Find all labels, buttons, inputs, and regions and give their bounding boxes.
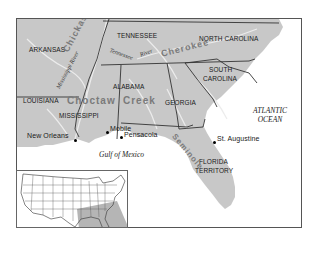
city-dot-st-augustine [213,141,216,144]
state-label-mississippi: MISSISSIPPI [59,112,99,119]
nation-label-choctaw: Choctaw [67,95,116,106]
state-label-tennessee: TENNESSEE [117,32,157,39]
city-label-new-orleans: New Orleans [27,132,69,139]
state-label-louisiana: LOUISIANA [23,97,59,104]
state-label-arkansas: ARKANSAS [29,46,65,53]
state-label-alabama: ALABAMA [113,83,144,90]
water-label-atlantic: ATLANTIC OCEAN [245,106,295,124]
city-dot-new-orleans [74,139,77,142]
water-label-atlantic-line1: ATLANTIC [245,106,295,115]
water-label-gulf-of-mexico: Gulf of Mexico [99,150,144,159]
nation-label-creek: Creek [123,95,156,106]
city-dot-pensacola [120,136,123,139]
water-label-atlantic-line2: OCEAN [245,115,295,124]
city-label-st-augustine: St. Augustine [217,135,260,142]
state-label-south-carolina-line2: CAROLINA [203,75,237,82]
state-label-south-carolina-line1: SOUTH [209,66,232,73]
inset-us-map [17,171,128,228]
inset-locator-map [16,170,128,228]
city-dot-mobile [106,131,109,134]
city-label-pensacola: Pensacola [124,131,158,138]
state-label-georgia: GEORGIA [165,99,196,106]
inset-highlight-region [77,201,128,228]
